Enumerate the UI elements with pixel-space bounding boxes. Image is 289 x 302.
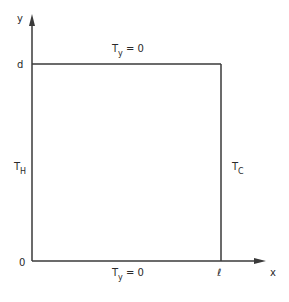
top-bc-rest: = 0 bbox=[123, 43, 144, 54]
bottom-bc-sub: y bbox=[118, 273, 123, 282]
y-axis-label: y bbox=[17, 14, 23, 24]
left-bc-sub: H bbox=[20, 167, 26, 176]
bottom-bc-rest: = 0 bbox=[123, 267, 144, 278]
left-boundary-condition: TH bbox=[14, 162, 26, 172]
x-axis-arrow-icon bbox=[254, 258, 266, 264]
x-axis-label: x bbox=[270, 268, 276, 278]
bottom-boundary-condition: Ty = 0 bbox=[112, 268, 144, 278]
top-boundary-condition: Ty = 0 bbox=[112, 44, 144, 54]
right-bc-sub: C bbox=[238, 167, 244, 176]
y-tick-d: d bbox=[17, 60, 23, 70]
right-boundary-condition: TC bbox=[232, 162, 244, 172]
y-axis-arrow-icon bbox=[29, 14, 35, 26]
domain-diagram bbox=[0, 0, 289, 302]
origin-label: 0 bbox=[19, 258, 25, 268]
top-bc-sub: y bbox=[118, 49, 123, 58]
x-tick-l: ℓ bbox=[217, 268, 221, 278]
